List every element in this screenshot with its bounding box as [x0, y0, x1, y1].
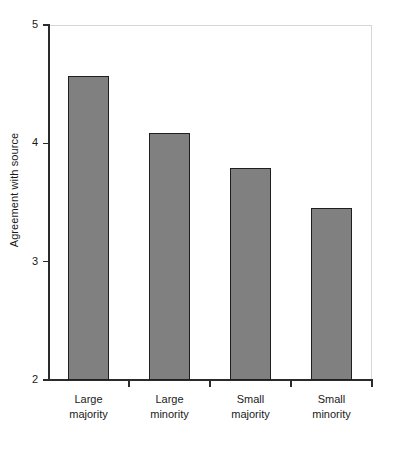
- x-axis-tick-mark: [209, 381, 211, 387]
- x-axis-category-label-line2: majority: [210, 407, 291, 422]
- x-axis-category-label-line1: Large: [129, 392, 210, 407]
- x-axis-category-label: Largemajority: [48, 392, 129, 422]
- y-axis-title-text: Agreement with source: [8, 133, 20, 248]
- y-axis-tick-label: 3: [18, 256, 38, 267]
- y-axis-tick-label: 2: [18, 374, 38, 385]
- y-axis-line: [48, 24, 50, 381]
- bar: [230, 168, 271, 380]
- y-axis-tick-mark: [43, 24, 49, 26]
- x-axis-category-label-line2: minority: [129, 407, 210, 422]
- x-axis-category-label: Smallminority: [291, 392, 372, 422]
- x-axis-category-label-line1: Small: [210, 392, 291, 407]
- y-axis-title: Agreement with source: [0, 0, 28, 380]
- y-axis-tick-label: 5: [18, 19, 38, 30]
- x-axis-category-label: Largeminority: [129, 392, 210, 422]
- x-axis-category-label-line2: minority: [291, 407, 372, 422]
- y-axis-tick-mark: [43, 379, 49, 381]
- x-axis-category-label-line2: majority: [48, 407, 129, 422]
- x-axis-category-label-line1: Small: [291, 392, 372, 407]
- y-axis-tick-mark: [43, 261, 49, 263]
- y-axis-tick-mark: [43, 143, 49, 145]
- bar-chart-figure: Agreement with source 5432 Largemajority…: [0, 0, 394, 450]
- x-axis-tick-mark: [128, 381, 130, 387]
- y-axis-tick-label: 4: [18, 137, 38, 148]
- bar: [149, 133, 190, 380]
- x-axis-tick-mark: [371, 381, 373, 387]
- bar: [68, 76, 109, 380]
- bar: [311, 208, 352, 380]
- x-axis-category-label: Smallmajority: [210, 392, 291, 422]
- x-axis-category-label-line1: Large: [48, 392, 129, 407]
- x-axis-tick-mark: [290, 381, 292, 387]
